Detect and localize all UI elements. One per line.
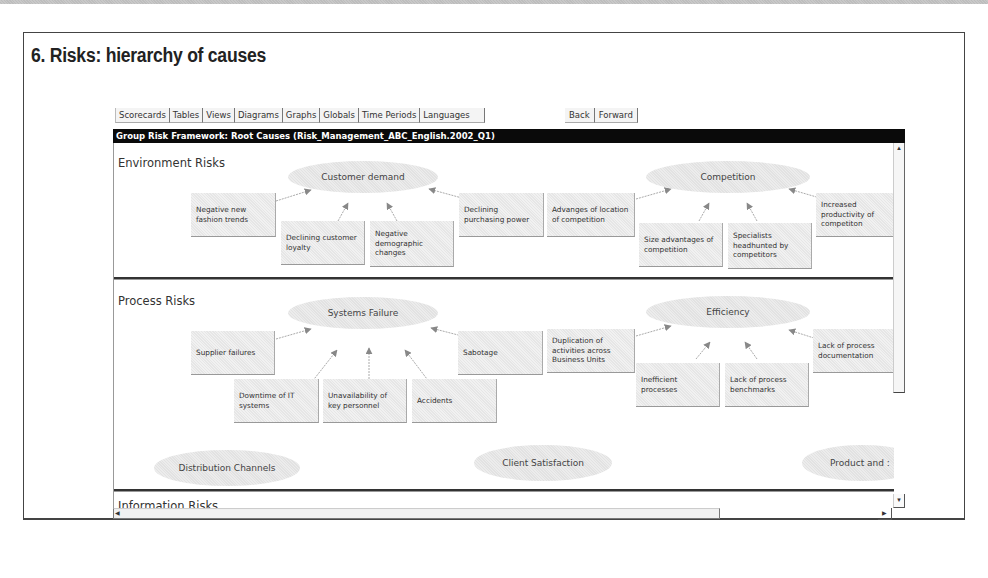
root-node-systems-failure[interactable]: Systems Failure <box>288 297 438 329</box>
nav-buttons: Back Forward <box>565 108 638 122</box>
section-divider <box>114 277 894 280</box>
cause-declining-customer-loyalty[interactable]: Declining customer loyalty <box>281 221 365 265</box>
tab-globals[interactable]: Globals <box>320 108 359 123</box>
tab-languages[interactable]: Languages <box>420 108 484 123</box>
page-title: 6. Risks: hierarchy of causes <box>31 44 266 67</box>
cause-increased-productivity-competition[interactable]: Increased productivity of competiton <box>816 193 894 237</box>
forward-button[interactable]: Forward <box>595 108 638 123</box>
tab-diagrams[interactable]: Diagrams <box>235 108 283 123</box>
cause-location-of-competition[interactable]: Advanges of location of competition <box>547 193 635 237</box>
section-divider <box>114 489 894 492</box>
cause-specialists-headhunted[interactable]: Specialists headhunted by competitors <box>728 223 812 269</box>
tab-graphs[interactable]: Graphs <box>283 108 321 123</box>
back-button[interactable]: Back <box>565 108 595 123</box>
scroll-right-icon[interactable]: ▶ <box>878 508 892 520</box>
cause-lack-process-benchmarks[interactable]: Lack of process benchmarks <box>725 363 809 407</box>
root-node-client-satisfaction[interactable]: Client Satisfaction <box>474 445 612 481</box>
cause-downtime-it-systems[interactable]: Downtime of IT systems <box>234 379 319 423</box>
top-band <box>0 0 988 4</box>
cause-supplier-failures[interactable]: Supplier failures <box>191 331 275 375</box>
diagram-canvas[interactable]: Environment Risks Customer demand Negati… <box>113 143 894 511</box>
vertical-scrollbar-bottom[interactable]: ▼ <box>893 494 905 508</box>
root-node-customer-demand[interactable]: Customer demand <box>288 161 438 193</box>
root-node-distribution-channels[interactable]: Distribution Channels <box>154 450 300 486</box>
horizontal-scrollbar[interactable]: ◀ <box>113 508 720 519</box>
vertical-scrollbar[interactable]: ▲ <box>893 143 905 393</box>
scroll-left-icon[interactable]: ◀ <box>115 509 120 518</box>
cause-duplication-activities[interactable]: Duplication of activities across Busines… <box>547 329 635 373</box>
section-label-environment-risks: Environment Risks <box>118 156 225 170</box>
cause-declining-purchasing-power[interactable]: Declining purchasing power <box>459 193 544 237</box>
diagram-header: Group Risk Framework: Root Causes (Risk_… <box>113 129 905 143</box>
root-node-product[interactable]: Product and : <box>802 445 894 481</box>
cause-negative-fashion-trends[interactable]: Negative new fashion trends <box>191 193 276 237</box>
root-node-efficiency[interactable]: Efficiency <box>646 296 810 328</box>
tab-bar: Scorecards Tables Views Diagrams Graphs … <box>115 108 485 122</box>
cause-negative-demographic-changes[interactable]: Negative demographic changes <box>370 221 454 267</box>
section-label-process-risks: Process Risks <box>118 294 195 308</box>
tab-tables[interactable]: Tables <box>170 108 203 123</box>
scroll-down-icon[interactable]: ▼ <box>894 494 904 506</box>
cause-lack-process-documentation[interactable]: Lack of process documentation <box>813 329 894 373</box>
tab-scorecards[interactable]: Scorecards <box>115 108 170 123</box>
cause-size-advantages-competition[interactable]: Size advantages of competition <box>639 223 723 267</box>
cause-accidents[interactable]: Accidents <box>412 379 497 423</box>
cause-unavailability-key-personnel[interactable]: Unavailability of key personnel <box>323 379 407 423</box>
root-node-competition[interactable]: Competition <box>646 161 810 193</box>
scroll-up-icon[interactable]: ▲ <box>894 143 904 153</box>
tab-views[interactable]: Views <box>203 108 235 123</box>
tab-time-periods[interactable]: Time Periods <box>359 108 420 123</box>
cause-inefficient-processes[interactable]: Inefficient processes <box>636 363 720 407</box>
cause-sabotage[interactable]: Sabotage <box>458 331 543 375</box>
